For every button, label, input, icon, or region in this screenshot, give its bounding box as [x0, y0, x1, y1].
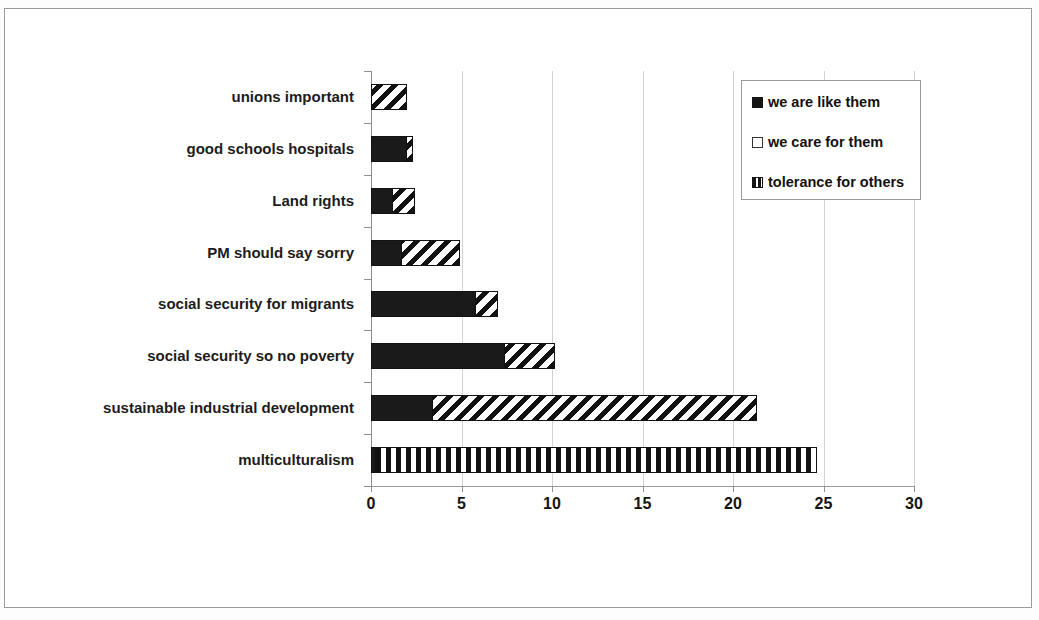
legend-item: we are like them — [752, 95, 880, 110]
category-label: unions important — [24, 88, 354, 106]
legend-item: tolerance for others — [752, 175, 904, 190]
bar-row — [371, 330, 914, 382]
bar-segment — [401, 240, 461, 266]
stacked-bar — [371, 136, 413, 162]
x-axis-tick-label: 30 — [884, 495, 944, 513]
stacked-bar — [371, 188, 415, 214]
bar-segment — [371, 136, 407, 162]
bar-segment — [371, 84, 407, 110]
chart-legend: we are like them we care for them tolera… — [741, 80, 921, 200]
bar-segment — [371, 395, 433, 421]
x-axis-tick — [462, 486, 463, 492]
x-axis-tick-label: 10 — [522, 495, 582, 513]
stacked-bar — [371, 395, 757, 421]
y-axis-tick — [364, 382, 371, 383]
bar-segment — [392, 188, 416, 214]
bar-segment — [432, 395, 758, 421]
legend-label: tolerance for others — [768, 175, 904, 190]
bar-segment — [371, 240, 402, 266]
stacked-bar — [371, 291, 498, 317]
outlined-square-icon — [752, 137, 763, 148]
vertical-stripe-square-icon — [752, 177, 763, 188]
solid-black-square-icon — [752, 97, 763, 108]
figure-frame: 051015202530 unions importantgood school… — [4, 8, 1032, 608]
chart-figure: 051015202530 unions importantgood school… — [0, 0, 1039, 620]
x-axis-tick — [914, 486, 915, 492]
x-axis-tick-label: 0 — [341, 495, 401, 513]
stacked-bar — [371, 240, 460, 266]
x-axis-tick — [733, 486, 734, 492]
x-axis-tick — [371, 486, 372, 492]
y-axis-tick — [364, 486, 371, 487]
y-axis-tick — [364, 175, 371, 176]
y-axis-tick — [364, 434, 371, 435]
x-axis-tick-label: 15 — [613, 495, 673, 513]
x-axis-tick — [552, 486, 553, 492]
stacked-bar — [371, 447, 817, 473]
bar-segment — [371, 188, 393, 214]
bar-segment — [406, 136, 413, 162]
category-label: sustainable industrial development — [24, 399, 354, 417]
y-axis-tick — [364, 227, 371, 228]
y-axis-tick — [364, 279, 371, 280]
x-axis-tick-label: 5 — [432, 495, 492, 513]
category-label: multiculturalism — [24, 451, 354, 469]
category-label: social security so no poverty — [24, 347, 354, 365]
y-axis-tick — [364, 330, 371, 331]
bar-segment — [504, 343, 555, 369]
x-axis-tick — [643, 486, 644, 492]
bar-segment — [475, 291, 499, 317]
x-axis-tick — [824, 486, 825, 492]
bar-segment — [375, 447, 817, 473]
category-label: PM should say sorry — [24, 244, 354, 262]
x-axis-tick-label: 25 — [794, 495, 854, 513]
legend-label: we are like them — [768, 95, 880, 110]
stacked-bar — [371, 84, 407, 110]
category-label: good schools hospitals — [24, 140, 354, 158]
legend-label: we care for them — [768, 135, 883, 150]
category-label: Land rights — [24, 192, 354, 210]
bar-row — [371, 434, 914, 486]
bar-segment — [371, 343, 505, 369]
legend-item: we care for them — [752, 135, 883, 150]
y-axis-tick — [364, 123, 371, 124]
x-axis-tick-label: 20 — [703, 495, 763, 513]
bar-row — [371, 279, 914, 331]
bar-segment — [371, 291, 476, 317]
stacked-bar — [371, 343, 555, 369]
bar-row — [371, 382, 914, 434]
category-label: social security for migrants — [24, 295, 354, 313]
bar-row — [371, 227, 914, 279]
y-axis-tick — [364, 71, 371, 72]
